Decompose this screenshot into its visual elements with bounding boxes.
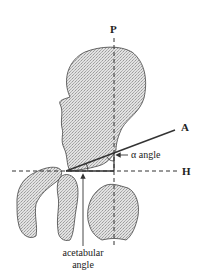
right-bone-fragment-shape xyxy=(88,184,139,240)
label-H: H xyxy=(182,165,191,177)
hip-angle-diagram: P H A α angle acetabular angle xyxy=(0,0,207,279)
femur-shaft-shape xyxy=(57,175,78,241)
left-bone-fragment-shape xyxy=(17,167,62,237)
label-alpha-angle: α angle xyxy=(131,149,161,160)
label-acetabular-line1: acetabular xyxy=(62,247,104,258)
label-A: A xyxy=(181,121,189,133)
label-P: P xyxy=(110,23,117,35)
diagram-canvas: P H A α angle acetabular angle xyxy=(0,0,207,279)
label-acetabular-line2: angle xyxy=(72,259,94,270)
